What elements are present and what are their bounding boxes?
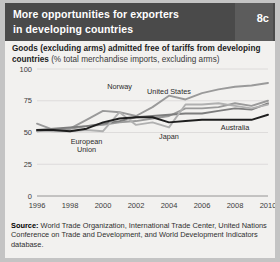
- title-line-1: More opportunities for exporters: [13, 7, 228, 22]
- page-title: More opportunities for exporters in deve…: [13, 7, 228, 37]
- x-tick-2000: 2000: [95, 201, 112, 210]
- series-label-norway: Norway: [107, 82, 132, 91]
- x-tick-2004: 2004: [161, 201, 178, 210]
- title-line-2: in developing countries: [13, 22, 228, 37]
- series-label-united-states: United States: [147, 87, 191, 96]
- y-axis-tick-labels: 0255075100: [19, 65, 32, 201]
- x-tick-2002: 2002: [128, 201, 145, 210]
- chart-card: Goods (excluding arms) admitted free of …: [5, 41, 275, 258]
- x-tick-2008: 2008: [227, 201, 244, 210]
- chart-subtitle: Goods (excluding arms) admitted free of …: [12, 44, 268, 65]
- source-text: World Trade Organization, International …: [11, 221, 267, 249]
- x-axis-tick-labels: 19961998200020022004200620082010: [29, 201, 275, 210]
- source-label: Source:: [11, 221, 39, 230]
- figure-header: More opportunities for exporters in deve…: [5, 3, 275, 41]
- series-label-australia: Australia: [221, 123, 250, 132]
- figure-container: More opportunities for exporters in deve…: [0, 0, 280, 262]
- source-note: Source: World Trade Organization, Intern…: [11, 221, 269, 249]
- y-tick-0: 0: [28, 192, 32, 201]
- series-label-japan: Japan: [159, 132, 179, 141]
- y-tick-75: 75: [24, 96, 32, 105]
- y-tick-100: 100: [19, 65, 32, 74]
- x-tick-2010: 2010: [260, 201, 275, 210]
- line-chart: 0255075100 19961998200020022004200620082…: [5, 63, 275, 218]
- chart-svg: 0255075100 19961998200020022004200620082…: [5, 63, 275, 218]
- x-tick-1998: 1998: [62, 201, 79, 210]
- figure-number-label: 8c: [257, 12, 269, 24]
- series-label-european-union: Union: [77, 145, 96, 154]
- y-tick-50: 50: [24, 128, 32, 137]
- y-tick-25: 25: [24, 160, 32, 169]
- x-tick-1996: 1996: [29, 201, 46, 210]
- x-tick-2006: 2006: [194, 201, 211, 210]
